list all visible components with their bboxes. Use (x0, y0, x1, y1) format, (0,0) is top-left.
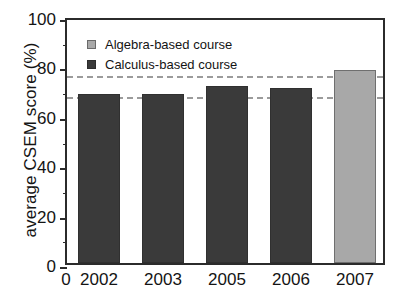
x-tick-label-2007: 2007 (336, 270, 374, 290)
y-tick-0 (60, 267, 67, 269)
y-tick-20 (60, 218, 67, 220)
y-tick-label-40: 40 (37, 158, 56, 178)
x-tick-label-2002: 2002 (80, 270, 118, 290)
plot-area: 020406080100 020022003200520062007 Algeb… (65, 18, 385, 265)
y-minor-tick-30 (63, 193, 67, 194)
chart-legend: Algebra-based course Calculus-based cour… (87, 34, 237, 74)
bar-2007 (334, 70, 376, 263)
bar-2003 (142, 94, 184, 263)
legend-label-algebra: Algebra-based course (105, 37, 232, 52)
x-tick-label-2006: 2006 (272, 270, 310, 290)
y-minor-tick-90 (63, 45, 67, 46)
legend-swatch-algebra-icon (87, 40, 96, 49)
legend-label-calculus: Calculus-based course (105, 57, 237, 72)
bar-2006 (270, 88, 312, 263)
x-tick-label-2005: 2005 (208, 270, 246, 290)
y-tick-80 (60, 69, 67, 71)
bar-chart: average CSEM score (%) 020406080100 0200… (0, 0, 399, 299)
y-tick-40 (60, 168, 67, 170)
bar-2002 (78, 94, 120, 263)
y-tick-label-60: 60 (37, 109, 56, 129)
legend-item-calculus: Calculus-based course (87, 54, 237, 74)
bar-2005 (206, 86, 248, 263)
y-tick-label-100: 100 (28, 10, 56, 30)
x-tick-label-2003: 2003 (144, 270, 182, 290)
y-minor-tick-70 (63, 94, 67, 95)
y-tick-60 (60, 119, 67, 121)
y-tick-label-80: 80 (37, 59, 56, 79)
y-tick-label-0: 0 (47, 257, 56, 277)
y-minor-tick-50 (63, 144, 67, 145)
y-tick-100 (60, 20, 67, 22)
y-minor-tick-10 (63, 242, 67, 243)
x-tick-label-origin: 0 (61, 270, 70, 290)
legend-swatch-calculus-icon (87, 60, 96, 69)
y-tick-label-20: 20 (37, 208, 56, 228)
legend-item-algebra: Algebra-based course (87, 34, 237, 54)
